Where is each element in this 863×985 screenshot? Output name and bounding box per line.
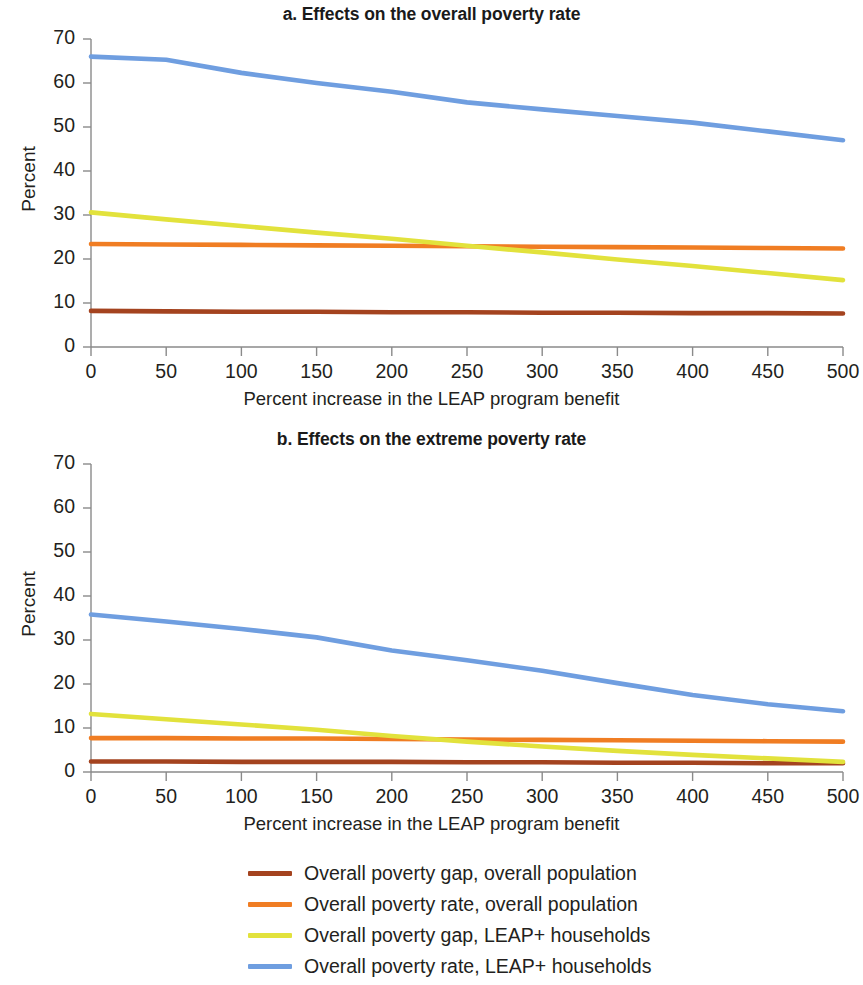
x-tick-label: 150 — [277, 785, 357, 808]
legend-item: Overall poverty gap, overall population — [0, 858, 863, 889]
x-tick-label: 0 — [51, 785, 131, 808]
series-line — [91, 614, 843, 711]
panel-a-x-axis-label: Percent increase in the LEAP program ben… — [0, 388, 863, 410]
x-tick-label: 50 — [126, 360, 206, 383]
legend-swatch-icon — [248, 933, 292, 938]
legend-item-label: Overall poverty gap, overall population — [304, 862, 637, 885]
x-tick-label: 500 — [803, 360, 863, 383]
y-tick-label: 30 — [0, 627, 75, 650]
series-line — [91, 761, 843, 763]
x-tick-label: 50 — [126, 785, 206, 808]
x-tick-label: 100 — [201, 785, 281, 808]
legend-item: Overall poverty rate, overall population — [0, 889, 863, 920]
y-tick-label: 60 — [0, 70, 75, 93]
y-tick-label: 30 — [0, 202, 75, 225]
x-tick-label: 200 — [352, 785, 432, 808]
y-tick-label: 50 — [0, 539, 75, 562]
x-tick-label: 0 — [51, 360, 131, 383]
x-tick-label: 400 — [653, 785, 733, 808]
figure-poverty-effects: a. Effects on the overall poverty rate P… — [0, 0, 863, 985]
panel-b-x-axis-label: Percent increase in the LEAP program ben… — [0, 813, 863, 835]
y-tick-label: 40 — [0, 158, 75, 181]
legend-item-label: Overall poverty rate, LEAP+ households — [304, 955, 651, 978]
y-tick-label: 10 — [0, 290, 75, 313]
series-line — [91, 57, 843, 141]
x-tick-label: 450 — [728, 360, 808, 383]
legend-swatch-icon — [248, 902, 292, 907]
legend-swatch-icon — [248, 964, 292, 969]
x-tick-label: 400 — [653, 360, 733, 383]
x-tick-label: 100 — [201, 360, 281, 383]
legend-item: Overall poverty gap, LEAP+ households — [0, 920, 863, 951]
legend-item-label: Overall poverty gap, LEAP+ households — [304, 924, 650, 947]
x-tick-label: 450 — [728, 785, 808, 808]
y-tick-label: 40 — [0, 583, 75, 606]
legend-item: Overall poverty rate, LEAP+ households — [0, 951, 863, 982]
x-tick-label: 250 — [427, 360, 507, 383]
x-tick-label: 300 — [502, 360, 582, 383]
x-tick-label: 500 — [803, 785, 863, 808]
legend-item-label: Overall poverty rate, overall population — [304, 893, 638, 916]
y-tick-label: 50 — [0, 114, 75, 137]
y-tick-label: 10 — [0, 715, 75, 738]
x-tick-label: 250 — [427, 785, 507, 808]
y-tick-label: 60 — [0, 495, 75, 518]
legend-swatch-icon — [248, 871, 292, 876]
y-tick-label: 70 — [0, 451, 75, 474]
chart-legend: Overall poverty gap, overall populationO… — [0, 858, 863, 982]
series-line — [91, 311, 843, 314]
chart-panel-a: a. Effects on the overall poverty rate P… — [0, 0, 863, 425]
y-tick-label: 0 — [0, 759, 75, 782]
x-tick-label: 200 — [352, 360, 432, 383]
y-tick-label: 70 — [0, 26, 75, 49]
y-tick-label: 20 — [0, 246, 75, 269]
y-tick-label: 20 — [0, 671, 75, 694]
chart-panel-b: b. Effects on the extreme poverty rate P… — [0, 425, 863, 850]
x-tick-label: 350 — [577, 785, 657, 808]
x-tick-label: 350 — [577, 360, 657, 383]
x-tick-label: 150 — [277, 360, 357, 383]
y-tick-label: 0 — [0, 334, 75, 357]
x-tick-label: 300 — [502, 785, 582, 808]
